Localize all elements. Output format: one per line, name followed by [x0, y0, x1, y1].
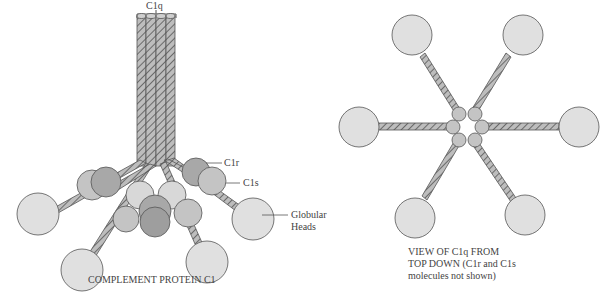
label-c1r: C1r — [224, 157, 239, 169]
label-c1q: C1q — [146, 0, 163, 12]
label-globular-heads-line1: Globular — [291, 209, 327, 221]
c1r-c1s-molecules — [77, 158, 226, 237]
diagram-canvas — [0, 0, 611, 296]
c1q-spokes — [378, 53, 559, 202]
c1-complex-side-view — [17, 10, 288, 291]
c1q-top-heads — [339, 15, 599, 238]
c1q-inner-nodes — [446, 107, 489, 147]
label-globular-heads-line2: Heads — [291, 221, 316, 233]
left-diagram-title: COMPLEMENT PROTEIN C1 — [88, 274, 216, 286]
right-caption-line2: TOP DOWN (C1r and C1s — [408, 258, 516, 270]
c1q-stalk — [137, 14, 175, 167]
c1q-top-view — [339, 15, 599, 238]
right-caption-line3: molecules not shown) — [408, 270, 496, 282]
right-caption-line1: VIEW OF C1q FROM — [408, 246, 499, 258]
label-c1s: C1s — [243, 177, 259, 189]
